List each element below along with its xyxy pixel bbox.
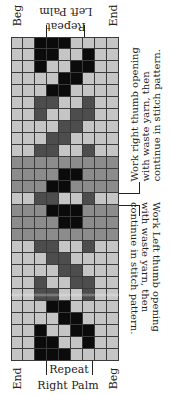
chart-cell <box>95 313 107 325</box>
chart-cell <box>71 133 83 145</box>
chart-cell <box>11 145 23 157</box>
chart-cell <box>35 301 47 313</box>
chart-cell <box>59 241 71 253</box>
chart-cell <box>23 121 35 133</box>
chart-cell <box>11 205 23 217</box>
chart-cell <box>107 181 119 193</box>
chart-cell <box>35 241 47 253</box>
chart-cell <box>11 169 23 181</box>
chart-cell <box>107 325 119 337</box>
chart-cell <box>35 145 47 157</box>
chart-cell <box>107 289 119 301</box>
right-thumb-note-line-2: with waste yarn, then <box>140 32 151 182</box>
chart-cell <box>83 253 95 265</box>
chart-cell <box>47 265 59 277</box>
chart-cell <box>11 325 23 337</box>
chart-cell <box>11 241 23 253</box>
right-thumb-note-line-3: continue in stitch pattern. <box>151 32 162 182</box>
chart-cell <box>35 109 47 121</box>
chart-cell <box>23 109 35 121</box>
chart-cell <box>83 337 95 349</box>
chart-cell <box>95 265 107 277</box>
chart-cell <box>59 109 71 121</box>
bottom-repeat-label: Repeat <box>45 364 93 375</box>
chart-cell <box>35 205 47 217</box>
chart-cell <box>95 145 107 157</box>
chart-cell <box>35 193 47 205</box>
chart-cell <box>59 97 71 109</box>
chart-cell <box>107 145 119 157</box>
chart-cell <box>71 301 83 313</box>
chart-cell <box>95 289 107 301</box>
chart-cell <box>47 289 59 301</box>
chart-cell <box>47 121 59 133</box>
chart-cell <box>71 157 83 169</box>
chart-cell <box>11 181 23 193</box>
chart-cell <box>107 157 119 169</box>
chart-cell <box>107 109 119 121</box>
chart-cell <box>47 61 59 73</box>
chart-cell <box>107 193 119 205</box>
chart-cell <box>59 85 71 97</box>
chart-cell <box>23 73 35 85</box>
chart-cell <box>59 301 71 313</box>
chart-cell <box>11 289 23 301</box>
chart-cell <box>83 97 95 109</box>
chart-cell <box>59 61 71 73</box>
right-thumb-bracket-horizontal <box>119 193 140 194</box>
chart-cell <box>11 301 23 313</box>
chart-cell <box>47 229 59 241</box>
chart-cell <box>47 109 59 121</box>
chart-cell <box>47 217 59 229</box>
top-repeat-tick-left <box>46 25 47 37</box>
chart-cell <box>11 133 23 145</box>
chart-cell <box>47 193 59 205</box>
chart-cell <box>107 85 119 97</box>
chart-cell <box>59 145 71 157</box>
right-thumb-note: Work right thumb opening with waste yarn… <box>120 40 170 190</box>
chart-cell <box>71 337 83 349</box>
chart-cell <box>35 313 47 325</box>
chart-cell <box>47 37 59 49</box>
chart-cell <box>107 229 119 241</box>
chart-cell <box>59 121 71 133</box>
chart-cell <box>71 181 83 193</box>
chart-cell <box>95 241 107 253</box>
chart-cell <box>23 313 35 325</box>
chart-cell <box>95 97 107 109</box>
chart-cell <box>95 229 107 241</box>
chart-cell <box>23 97 35 109</box>
right-thumb-note-line-1: Work right thumb opening <box>129 32 140 182</box>
chart-cell <box>95 325 107 337</box>
chart-cell <box>59 289 71 301</box>
chart-cell <box>35 85 47 97</box>
knitting-chart-grid <box>11 37 119 361</box>
chart-cell <box>71 313 83 325</box>
chart-cell <box>95 109 107 121</box>
chart-cell <box>35 157 47 169</box>
chart-cell <box>23 217 35 229</box>
chart-cell <box>83 73 95 85</box>
bottom-beg-label: Beg <box>108 368 119 390</box>
chart-cell <box>35 181 47 193</box>
chart-cell <box>59 193 71 205</box>
chart-cell <box>107 61 119 73</box>
chart-cell <box>83 85 95 97</box>
chart-cell <box>35 229 47 241</box>
chart-cell <box>23 181 35 193</box>
chart-cell <box>23 241 35 253</box>
chart-cell <box>107 73 119 85</box>
chart-cell <box>95 205 107 217</box>
chart-cell <box>83 133 95 145</box>
chart-cell <box>95 85 107 97</box>
chart-cell <box>23 277 35 289</box>
chart-cell <box>71 109 83 121</box>
chart-cell <box>107 337 119 349</box>
chart-cell <box>71 241 83 253</box>
chart-cell <box>107 205 119 217</box>
chart-cell <box>95 337 107 349</box>
chart-cell <box>11 229 23 241</box>
chart-cell <box>107 277 119 289</box>
chart-cell <box>47 313 59 325</box>
chart-cell <box>83 289 95 301</box>
